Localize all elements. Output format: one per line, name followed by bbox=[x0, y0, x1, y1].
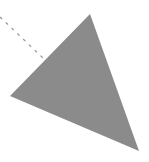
figure-svg bbox=[0, 0, 149, 162]
figure-canvas bbox=[0, 0, 149, 162]
